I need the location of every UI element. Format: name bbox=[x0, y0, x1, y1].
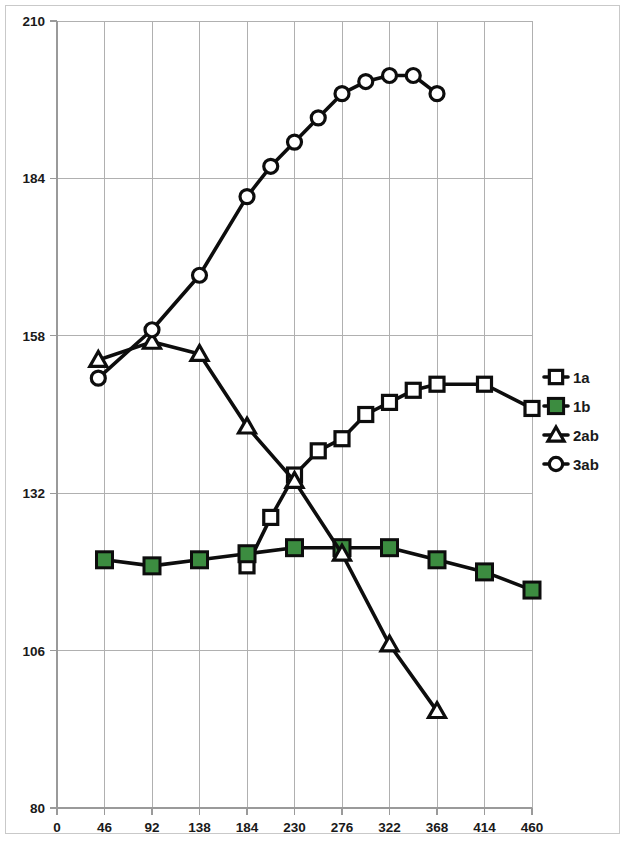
marker-open-circle bbox=[335, 87, 349, 101]
xtick-labels-group: 04692138184230276322368414460 bbox=[53, 820, 543, 835]
marker-open-square bbox=[549, 370, 562, 383]
marker-open-circle bbox=[145, 323, 159, 337]
marker-filled-square bbox=[477, 564, 493, 580]
legend-item-2ab[interactable]: 2ab bbox=[544, 427, 599, 444]
marker-filled-square bbox=[524, 582, 540, 598]
x-tick-label: 368 bbox=[426, 820, 449, 835]
series-1b bbox=[97, 540, 541, 598]
marker-open-square bbox=[478, 377, 492, 391]
y-tick-label: 106 bbox=[22, 644, 45, 659]
marker-filled-square bbox=[239, 546, 255, 562]
y-tick-label: 80 bbox=[30, 801, 45, 816]
marker-open-circle bbox=[430, 87, 444, 101]
marker-open-triangle bbox=[191, 345, 208, 360]
x-tick-label: 414 bbox=[473, 820, 496, 835]
x-tick-label: 138 bbox=[188, 820, 211, 835]
legend-label-2ab: 2ab bbox=[573, 427, 599, 444]
marker-open-circle bbox=[359, 75, 373, 89]
marker-open-circle bbox=[240, 190, 254, 204]
y-tick-label: 132 bbox=[22, 486, 45, 501]
legend-label-3ab: 3ab bbox=[573, 456, 599, 473]
chart-canvas: 80106132158184210 0469213818423027632236… bbox=[0, 0, 627, 841]
y-tick-label: 158 bbox=[22, 329, 45, 344]
marker-filled-square bbox=[97, 552, 113, 568]
ytick-labels-group: 80106132158184210 bbox=[22, 14, 45, 816]
y-tick-label: 184 bbox=[22, 171, 45, 186]
marker-open-triangle bbox=[381, 636, 398, 651]
marker-filled-square bbox=[382, 540, 398, 556]
y-tick-label: 210 bbox=[22, 14, 45, 29]
x-tick-label: 0 bbox=[53, 820, 61, 835]
x-tick-label: 230 bbox=[283, 820, 306, 835]
x-tick-label: 46 bbox=[97, 820, 113, 835]
marker-open-square bbox=[430, 377, 444, 391]
marker-open-circle bbox=[288, 135, 302, 149]
marker-open-square bbox=[335, 432, 349, 446]
marker-filled-square bbox=[144, 558, 160, 574]
marker-open-square bbox=[383, 395, 397, 409]
x-tick-label: 276 bbox=[331, 820, 354, 835]
chart-figure: 80106132158184210 0469213818423027632236… bbox=[0, 0, 627, 841]
marker-open-circle bbox=[193, 268, 207, 282]
marker-filled-square bbox=[287, 540, 303, 556]
legend-label-1b: 1b bbox=[573, 398, 591, 415]
series-line-1b bbox=[105, 548, 533, 590]
x-tick-label: 460 bbox=[521, 820, 544, 835]
marker-open-circle bbox=[383, 68, 397, 82]
marker-open-circle bbox=[91, 371, 105, 385]
marker-filled-square bbox=[429, 552, 445, 568]
marker-open-circle bbox=[406, 68, 420, 82]
marker-open-square bbox=[406, 383, 420, 397]
x-tick-label: 322 bbox=[378, 820, 401, 835]
marker-open-square bbox=[264, 510, 278, 524]
legend-group: 1a1b2ab3ab bbox=[544, 369, 599, 473]
x-tick-label: 92 bbox=[144, 820, 159, 835]
legend-label-1a: 1a bbox=[573, 369, 590, 386]
marker-open-square bbox=[311, 444, 325, 458]
marker-open-triangle bbox=[548, 427, 564, 441]
x-tick-label: 184 bbox=[236, 820, 259, 835]
marker-open-circle bbox=[264, 159, 278, 173]
marker-open-circle bbox=[311, 111, 325, 125]
legend-item-1b[interactable]: 1b bbox=[544, 398, 591, 415]
marker-filled-square bbox=[192, 552, 208, 568]
series-group bbox=[90, 68, 540, 717]
marker-open-square bbox=[525, 401, 539, 415]
marker-filled-square bbox=[548, 398, 563, 413]
marker-open-square bbox=[359, 408, 373, 422]
legend-item-3ab[interactable]: 3ab bbox=[544, 456, 599, 473]
marker-open-circle bbox=[549, 457, 562, 470]
legend-item-1a[interactable]: 1a bbox=[544, 369, 590, 386]
series-3ab bbox=[91, 68, 444, 385]
